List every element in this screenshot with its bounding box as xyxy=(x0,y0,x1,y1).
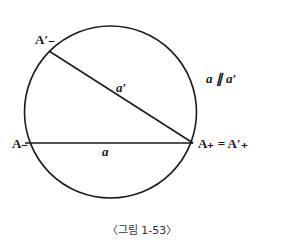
figure-caption: 〈그림 1-53〉 xyxy=(0,221,284,237)
label-parallel: a ∥ a′ xyxy=(206,71,236,87)
label-chord-a: a xyxy=(102,144,109,160)
label-a-minus: A₋ xyxy=(12,136,28,152)
label-a-prime-minus: A′₋ xyxy=(35,32,55,48)
label-chord-a-prime: a′ xyxy=(116,80,126,96)
label-a-plus-equals: A₊ = A′₊ xyxy=(198,136,248,152)
chord-a-prime xyxy=(49,51,193,143)
